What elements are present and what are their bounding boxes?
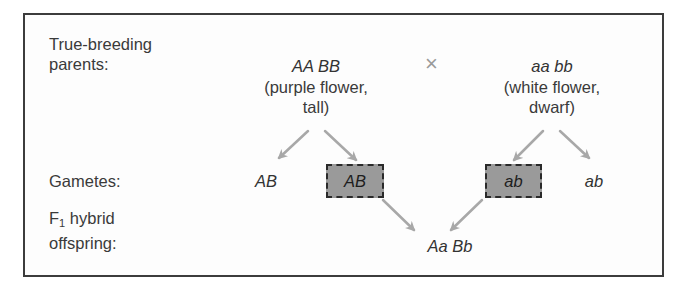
arrow-gamete-AB-to-offspring: [383, 200, 414, 230]
arrow-gamete-ab-to-offspring: [451, 200, 482, 230]
arrows-layer: [0, 0, 688, 296]
arrow-left-parent-to-gamete-plain: [279, 131, 308, 158]
arrow-right-parent-to-gamete-plain: [560, 131, 589, 158]
arrow-left-parent-to-gamete-highlighted: [325, 131, 356, 160]
arrow-right-parent-to-gamete-highlighted: [514, 131, 543, 160]
